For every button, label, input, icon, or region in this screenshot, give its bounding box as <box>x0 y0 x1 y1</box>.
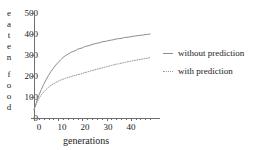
chart-legend: without prediction with prediction <box>163 44 244 80</box>
legend-label: without prediction <box>178 48 244 59</box>
legend-item-without-prediction[interactable]: without prediction <box>163 44 244 62</box>
legend-swatch-dotted-icon <box>163 71 173 72</box>
chart-figure: e a t e n f o o d 500 400 300 200 100 0 … <box>0 0 276 150</box>
legend-swatch-solid-icon <box>163 53 173 54</box>
axis-lines <box>34 13 160 119</box>
legend-label: with prediction <box>178 66 233 77</box>
series-lines <box>34 34 150 110</box>
series-line-without-prediction <box>34 34 150 110</box>
legend-item-with-prediction[interactable]: with prediction <box>163 62 244 80</box>
axis-ticks <box>31 14 151 122</box>
series-line-with-prediction <box>34 58 150 110</box>
